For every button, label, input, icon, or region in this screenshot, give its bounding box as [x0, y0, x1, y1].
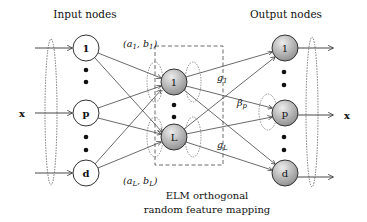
svg-text:L: L — [171, 132, 178, 143]
hidden-node-1: 1 — [161, 69, 187, 95]
input-node-p: p — [73, 100, 99, 126]
svg-text:p: p — [282, 108, 288, 119]
label-a1-b1: (a1, b1) — [123, 38, 157, 51]
output-group-ellipse — [306, 37, 318, 187]
output-nodes-title: Output nodes — [250, 8, 322, 20]
elm-diagram: Input nodes Output nodes x — [0, 0, 367, 222]
svg-text:1: 1 — [171, 77, 177, 88]
hidden-output-connections — [184, 52, 275, 170]
hidden-ellipsis-dots — [172, 103, 177, 120]
svg-text:d: d — [282, 168, 289, 179]
label-gL: gL — [217, 139, 228, 152]
label-aL-bL: (aL, bL) — [123, 175, 158, 188]
input-arrows — [35, 48, 72, 173]
svg-text:1: 1 — [83, 43, 90, 54]
output-x-label: x — [344, 110, 351, 121]
svg-text:1: 1 — [282, 43, 288, 54]
caption-line-1: ELM orthogonal — [166, 190, 249, 201]
output-arrows — [298, 48, 333, 177]
label-g1: g1 — [217, 72, 228, 85]
svg-text:p: p — [83, 108, 90, 119]
caption-line-2: random feature mapping — [144, 204, 271, 215]
output-node-p: p — [272, 100, 298, 126]
svg-text:d: d — [83, 168, 90, 179]
input-x-label: x — [19, 108, 26, 119]
input-group-ellipse — [45, 39, 57, 185]
output-node-d: d — [272, 160, 298, 186]
output-node-1: 1 — [272, 35, 298, 61]
input-nodes-title: Input nodes — [53, 8, 116, 20]
input-node-d: d — [73, 160, 99, 186]
hidden-node-L: L — [161, 124, 187, 150]
input-hidden-connections — [95, 53, 162, 168]
input-node-1: 1 — [73, 35, 99, 61]
label-beta-p: βp — [236, 97, 248, 110]
